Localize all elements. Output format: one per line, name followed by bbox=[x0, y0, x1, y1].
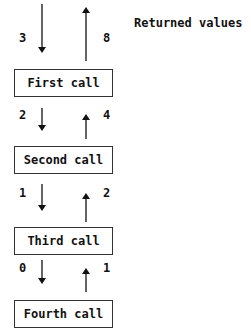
returned-values-title: Returned values bbox=[134, 16, 242, 30]
call-box-1: First call bbox=[14, 69, 113, 97]
call-box-3: Third call bbox=[14, 227, 113, 255]
returned-label-4: 1 bbox=[103, 261, 110, 275]
returned-label-1: 8 bbox=[103, 31, 110, 45]
arg-label-2: 2 bbox=[19, 108, 26, 122]
call-box-4: Fourth call bbox=[14, 300, 113, 328]
call-box-2: Second call bbox=[14, 146, 113, 174]
arg-label-1: 3 bbox=[19, 31, 26, 45]
returned-label-2: 4 bbox=[103, 108, 110, 122]
arg-label-4: 0 bbox=[19, 261, 26, 275]
arg-label-3: 1 bbox=[19, 186, 26, 200]
returned-label-3: 2 bbox=[103, 186, 110, 200]
